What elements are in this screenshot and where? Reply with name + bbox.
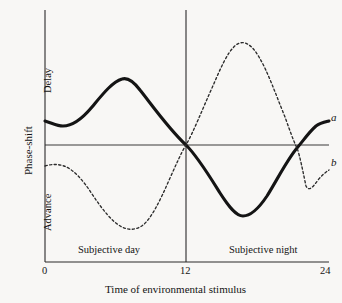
region-label-subjective-night: Subjective night bbox=[229, 245, 298, 256]
curve-b-dashed bbox=[45, 43, 329, 230]
y-axis-title: Phase-shift bbox=[23, 126, 34, 175]
chart-plot-area bbox=[0, 0, 342, 303]
x-tick-label-24: 24 bbox=[320, 266, 331, 277]
x-axis-title: Time of environmental stimulus bbox=[105, 284, 246, 295]
region-label-subjective-day: Subjective day bbox=[78, 245, 140, 256]
x-tick-label-0: 0 bbox=[42, 266, 47, 277]
x-tick-label-12: 12 bbox=[180, 266, 191, 277]
y-axis-advance-label: Advance bbox=[43, 194, 54, 231]
y-axis-delay-label: Delay bbox=[43, 68, 54, 93]
phase-response-curve-figure: Phase-shift Delay Advance 0 12 24 Time o… bbox=[0, 0, 342, 303]
curve-a-label: a bbox=[331, 112, 337, 123]
curve-a-solid bbox=[45, 79, 329, 216]
curve-b-label: b bbox=[331, 157, 337, 168]
